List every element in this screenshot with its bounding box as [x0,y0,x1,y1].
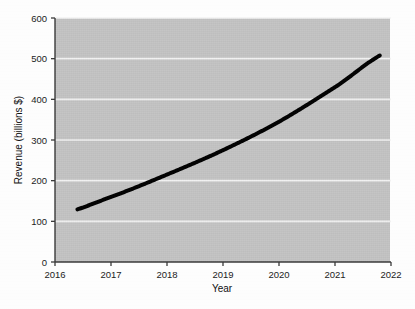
x-axis-tick-label: 2020 [268,269,289,280]
y-axis-tick-label: 500 [31,53,47,64]
y-axis-title: Revenue (billions $) [13,96,24,184]
x-axis-tick-label: 2018 [156,269,177,280]
y-axis-tick-label: 300 [31,135,47,146]
x-axis-tick-label: 2017 [100,269,121,280]
x-axis-tick-label: 2016 [44,269,65,280]
y-axis-tick-label: 600 [31,13,47,24]
x-axis-tick-label: 2022 [380,269,401,280]
x-axis-tick-label: 2019 [212,269,233,280]
y-axis-tick-label: 0 [42,257,47,268]
x-axis-title: Year [212,283,233,294]
y-axis-tick-label: 100 [31,216,47,227]
revenue-line-chart: 0100200300400500600 20162017201820192020… [0,0,415,309]
y-axis-tick-label: 400 [31,94,47,105]
chart-canvas: 0100200300400500600 20162017201820192020… [0,0,415,309]
x-axis-tick-label: 2021 [324,269,345,280]
y-axis-tick-label: 200 [31,175,47,186]
